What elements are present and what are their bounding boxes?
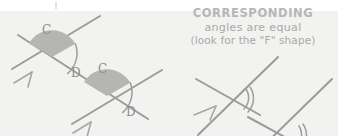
transversal-line-right-2 <box>252 79 332 136</box>
angle-label-c-lower: C <box>98 62 107 76</box>
parallel-arrowhead-lower <box>73 122 91 136</box>
parallel-arrowhead-upper <box>14 72 32 87</box>
angle-label-d-lower: D <box>126 105 136 119</box>
angle-double-arc-second <box>297 124 306 136</box>
caption-line-2: angles are equal <box>168 22 338 33</box>
worksheet-page: C D C D CORRESPONDING angles are equal (… <box>0 0 338 136</box>
paper-speck <box>55 2 57 9</box>
angle-label-d-upper: D <box>71 66 81 80</box>
left-diagram: C D C D <box>0 11 172 136</box>
right-diagram <box>186 57 338 136</box>
angle-label-c-upper: C <box>42 23 51 37</box>
caption-line-3: (look for the "F" shape) <box>168 35 338 46</box>
right-diagram-svg <box>186 57 338 136</box>
transversal-line-right <box>198 57 278 135</box>
left-diagram-svg: C D C D <box>0 11 172 136</box>
parallel-arrowhead-right <box>194 106 216 120</box>
caption-block: CORRESPONDING angles are equal (look for… <box>168 8 338 46</box>
caption-heading: CORRESPONDING <box>168 8 338 20</box>
